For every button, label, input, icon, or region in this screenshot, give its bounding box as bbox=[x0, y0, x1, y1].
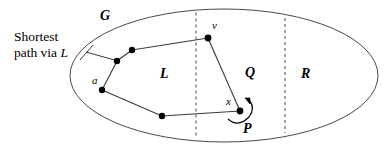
label-vertex-a: a bbox=[92, 75, 98, 87]
node-x bbox=[237, 108, 244, 115]
callout-line-2-italic-l: L bbox=[61, 45, 69, 60]
callout-leader-line bbox=[86, 52, 118, 61]
label-graph-g: G bbox=[100, 9, 110, 24]
node-v bbox=[205, 35, 212, 42]
label-path-p: P bbox=[243, 122, 252, 137]
edge-x-n3 bbox=[162, 111, 240, 116]
arrowhead-p-icon bbox=[245, 98, 250, 104]
label-vertex-x: x bbox=[226, 96, 231, 108]
edge-a-n1 bbox=[102, 61, 117, 90]
edge-n2-v bbox=[132, 38, 208, 50]
node-n3 bbox=[159, 113, 165, 119]
label-region-l: L bbox=[160, 67, 169, 82]
callout-line-2-prefix: path via bbox=[14, 45, 61, 60]
node-n1 bbox=[114, 58, 120, 64]
figure-canvas bbox=[0, 0, 389, 151]
callout-leader-tick bbox=[80, 45, 93, 60]
edge-n3-a bbox=[102, 90, 162, 116]
callout-shortest-path: Shortest path via L bbox=[14, 29, 68, 61]
path-nodes bbox=[99, 35, 244, 120]
figure-graph-partition: Shortest path via L G L Q R v a x P bbox=[0, 0, 389, 151]
label-region-q: Q bbox=[245, 66, 255, 81]
node-n2 bbox=[129, 47, 135, 53]
label-region-r: R bbox=[301, 67, 310, 82]
path-edges bbox=[102, 38, 240, 116]
callout-line-2: path via L bbox=[14, 45, 68, 61]
node-a bbox=[99, 87, 105, 93]
callout-line-1: Shortest bbox=[14, 29, 68, 45]
edge-v-x bbox=[208, 38, 240, 111]
label-vertex-v: v bbox=[212, 20, 217, 32]
